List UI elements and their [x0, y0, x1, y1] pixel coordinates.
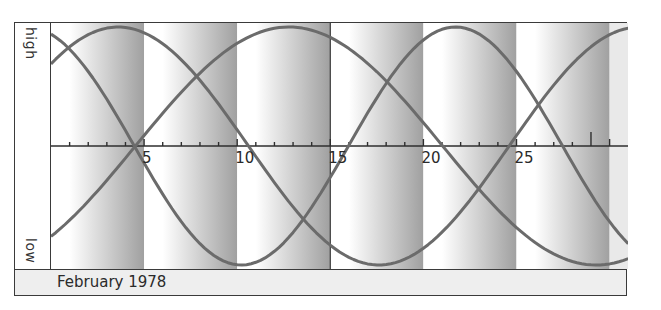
y-label-high: high: [23, 27, 39, 60]
tick-label: 20: [421, 149, 440, 167]
plot-area: 510152025: [51, 23, 628, 269]
tick-label: 10: [235, 149, 254, 167]
biorhythm-chart: high low 510152025 February 1978: [14, 22, 627, 296]
tick-label: 15: [328, 149, 347, 167]
tick-label: 5: [142, 149, 152, 167]
footer-band: February 1978: [15, 269, 626, 295]
y-label-low: low: [23, 238, 39, 263]
month-label: February 1978: [57, 273, 166, 291]
y-axis-labels: high low: [15, 23, 51, 269]
plot-svg: 510152025: [51, 23, 628, 269]
tick-label: 25: [515, 149, 534, 167]
